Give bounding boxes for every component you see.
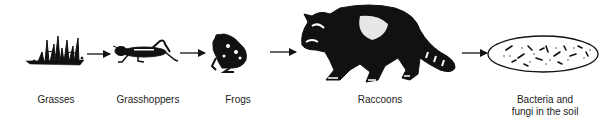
label-raccoons: Raccoons	[340, 94, 420, 106]
label-grasshoppers: Grasshoppers	[108, 94, 188, 106]
label-grasses: Grasses	[28, 94, 84, 106]
label-decomposers-line1: Bacteria and	[500, 94, 590, 106]
raccoon-icon	[302, 5, 455, 82]
soil-microbes-icon	[488, 36, 598, 72]
grasshopper-icon	[113, 40, 178, 62]
grass-icon	[26, 36, 84, 65]
label-frogs: Frogs	[218, 94, 258, 106]
frog-icon	[212, 34, 246, 72]
label-decomposers-line2: fungi in the soil	[500, 106, 590, 118]
